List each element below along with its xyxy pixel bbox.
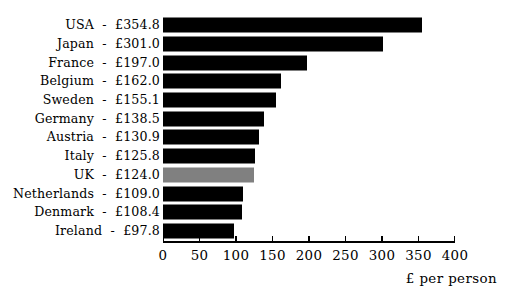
- x-axis-tick-label: 0: [159, 249, 168, 262]
- bar-belgium: [163, 74, 281, 89]
- bar-track: [163, 205, 242, 220]
- x-axis-tick-label: 300: [369, 249, 395, 262]
- bar-france: [163, 55, 307, 70]
- x-axis-tick: [199, 236, 200, 241]
- bar-row-label: Germany - £138.5: [35, 112, 160, 125]
- bar-row: UK - £124.0: [0, 166, 527, 185]
- bar-track: [163, 37, 383, 52]
- bar-row-label: Austria - £130.9: [47, 131, 160, 144]
- bar-row-label: Belgium - £162.0: [40, 75, 160, 88]
- bar-italy: [163, 149, 255, 164]
- bar-row: Italy - £125.8: [0, 147, 527, 166]
- bar-track: [163, 186, 243, 201]
- bar-row: Ireland - £97.8: [0, 222, 527, 241]
- x-axis: 050100150200250300350400: [163, 241, 455, 243]
- bar-row: Germany - £138.5: [0, 109, 527, 128]
- bar-sweden: [163, 93, 276, 108]
- bar-austria: [163, 130, 259, 145]
- bar-row-label: Japan - £301.0: [57, 38, 160, 51]
- x-axis-tick: [381, 236, 382, 241]
- x-axis-tick-label: 350: [405, 249, 431, 262]
- x-axis-title: £ per person: [0, 271, 497, 286]
- bar-track: [163, 130, 259, 145]
- bar-uk: [163, 167, 254, 182]
- bar-japan: [163, 37, 383, 52]
- bar-rows: USA - £354.8Japan - £301.0France - £197.…: [0, 16, 527, 240]
- bar-row-label: Sweden - £155.1: [43, 94, 160, 107]
- bar-row-label: France - £197.0: [48, 56, 160, 69]
- bar-row: USA - £354.8: [0, 16, 527, 35]
- x-axis-tick-label: 400: [442, 249, 468, 262]
- x-axis-tick-label: 50: [191, 249, 209, 262]
- bar-track: [163, 167, 254, 182]
- bar-denmark: [163, 205, 242, 220]
- bar-row: Sweden - £155.1: [0, 91, 527, 110]
- x-axis-tick-label: 150: [259, 249, 285, 262]
- bar-track: [163, 149, 255, 164]
- bar-row-label: Ireland - £97.8: [55, 225, 160, 238]
- axis-right-cap: [454, 236, 455, 241]
- x-axis-tick: [418, 236, 419, 241]
- bar-netherlands: [163, 186, 243, 201]
- bar-row: Denmark - £108.4: [0, 203, 527, 222]
- x-axis-tick: [345, 236, 346, 241]
- bar-row: France - £197.0: [0, 53, 527, 72]
- x-axis-tick-label: 100: [223, 249, 249, 262]
- bar-row-label: UK - £124.0: [74, 169, 160, 182]
- bar-row-label: Netherlands - £109.0: [13, 187, 160, 200]
- bar-row: Austria - £130.9: [0, 128, 527, 147]
- bar-track: [163, 55, 307, 70]
- bar-row-label: Italy - £125.8: [65, 150, 160, 163]
- x-axis-tick-label: 250: [332, 249, 358, 262]
- bar-row: Netherlands - £109.0: [0, 184, 527, 203]
- axis-left-cap: [163, 236, 164, 241]
- bar-track: [163, 18, 422, 33]
- x-axis-tick-label: 200: [296, 249, 322, 262]
- x-axis-tick: [272, 236, 273, 241]
- bar-chart: USA - £354.8Japan - £301.0France - £197.…: [0, 0, 527, 306]
- bar-row-label: Denmark - £108.4: [34, 206, 160, 219]
- bar-row: Belgium - £162.0: [0, 72, 527, 91]
- x-axis-tick: [235, 236, 236, 241]
- bar-track: [163, 111, 264, 126]
- bar-row: Japan - £301.0: [0, 35, 527, 54]
- bar-usa: [163, 18, 422, 33]
- bar-germany: [163, 111, 264, 126]
- x-axis-tick: [308, 236, 309, 241]
- bar-track: [163, 93, 276, 108]
- bar-track: [163, 74, 281, 89]
- bar-row-label: USA - £354.8: [65, 19, 160, 32]
